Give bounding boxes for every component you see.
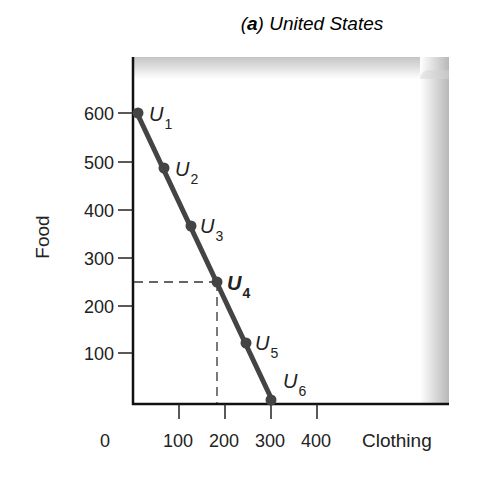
x-tick-400: 400 bbox=[301, 431, 331, 451]
y-tick-100: 100 bbox=[84, 344, 114, 364]
plot-background bbox=[133, 57, 449, 404]
y-axis-label: Food bbox=[32, 215, 53, 258]
y-tick-600: 600 bbox=[84, 104, 114, 124]
y-tick-200: 200 bbox=[84, 297, 114, 317]
y-ticks bbox=[118, 113, 133, 353]
y-tick-400: 400 bbox=[84, 201, 114, 221]
point-u4 bbox=[212, 277, 223, 288]
x-ticks bbox=[179, 404, 317, 419]
y-tick-300: 300 bbox=[84, 249, 114, 269]
x-tick-300: 300 bbox=[255, 431, 285, 451]
point-u1 bbox=[133, 108, 144, 119]
chart-title: (a) United States bbox=[241, 13, 384, 34]
point-u5 bbox=[241, 338, 252, 349]
x-tick-0: 0 bbox=[100, 431, 110, 451]
x-tick-100: 100 bbox=[163, 431, 193, 451]
x-tick-200: 200 bbox=[209, 431, 239, 451]
y-tick-500: 500 bbox=[84, 153, 114, 173]
point-u2 bbox=[159, 163, 170, 174]
point-u3 bbox=[186, 221, 197, 232]
x-axis-label: Clothing bbox=[362, 430, 432, 451]
point-u6 bbox=[266, 395, 277, 406]
chart: (a) United States 600 500 400 300 200 10… bbox=[0, 0, 477, 490]
